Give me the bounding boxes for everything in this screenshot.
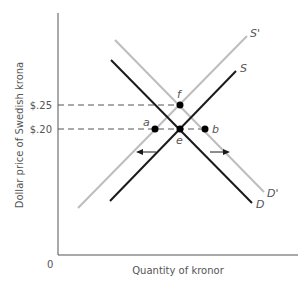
supply-curve-shifted <box>78 36 247 208</box>
supply-curve <box>110 71 236 201</box>
label-s: S <box>240 62 247 75</box>
label-b: b <box>212 123 219 136</box>
origin-label: 0 <box>47 259 53 270</box>
supply-demand-diagram: f e a b S' S D' D $.25 $.20 0 Quantity o… <box>0 0 301 288</box>
label-d: D <box>256 198 264 211</box>
label-f: f <box>177 88 183 101</box>
label-s-prime: S' <box>250 27 260 40</box>
tick-label-25: $.25 <box>30 100 52 111</box>
y-axis-title: Dollar price of Swedish krona <box>14 62 25 208</box>
point-b <box>202 126 209 133</box>
x-axis-title: Quantity of kronor <box>132 265 224 276</box>
point-e <box>177 126 184 133</box>
point-f <box>177 102 184 109</box>
tick-label-20: $.20 <box>30 124 52 135</box>
label-e: e <box>176 134 183 147</box>
point-a <box>152 126 159 133</box>
supply-shift-arrow <box>136 149 156 155</box>
label-d-prime: D' <box>267 187 279 200</box>
label-a: a <box>143 116 150 129</box>
